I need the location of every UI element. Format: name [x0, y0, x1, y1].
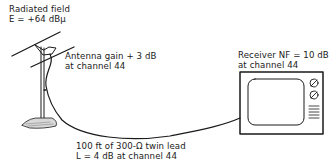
antenna-gain-channel: at channel 44	[65, 62, 157, 72]
diagram-drawing	[0, 0, 336, 164]
antenna-icon	[12, 32, 74, 128]
radiated-field-value: E = +64 dBμ	[9, 15, 70, 25]
receiver-label: Receiver NF = 10 dB at channel 44	[238, 51, 329, 70]
reception-diagram: Radiated field E = +64 dBμ Antenna gain …	[0, 0, 336, 164]
feedline-label: 100 ft of 300-Ω twin lead L = 4 dB at ch…	[76, 142, 186, 161]
television-receiver-icon	[240, 72, 323, 134]
antenna-gain-label: Antenna gain + 3 dB at channel 44	[65, 52, 157, 71]
receiver-channel: at channel 44	[238, 61, 329, 71]
radiated-field-label: Radiated field E = +64 dBμ	[9, 5, 70, 24]
feedline-loss: L = 4 dB at channel 44	[76, 152, 186, 162]
